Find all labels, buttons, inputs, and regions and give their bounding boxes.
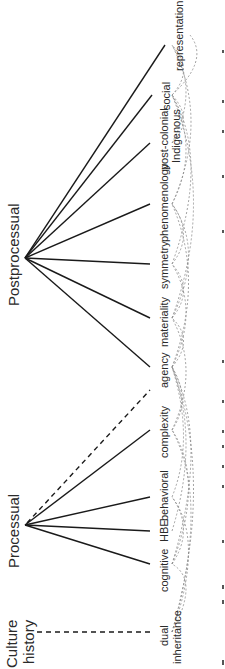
hub-processual-label: Processual [5,494,22,568]
postprocessual-edges [25,45,165,367]
processual-edges [25,390,150,564]
leaf-materiality-label: materiality [158,296,170,347]
diagram-canvas: Postprocessual Processual Culture histor… [0,0,225,669]
leaf-phenomenology-label: phenomenology [158,163,170,242]
edge-postprocessual-agency [25,258,150,367]
leaf-representation-label: representation [173,1,185,71]
leaf-dualinheritance-label-line2: inheritance [171,610,183,664]
edge-postprocessual-social [25,95,152,258]
lineage-diagram: Postprocessual Processual Culture histor… [0,0,225,669]
leaf-cognitive-label: cognitive [158,549,170,592]
edge-postprocessual-materiality [25,258,150,318]
leaf-behavioral-label: behavioral [158,470,170,521]
leaf-hbe-label: HBE [158,519,170,542]
edge-processual-hbe [25,525,150,531]
leaf-symmetry-label: symmetry [158,241,170,289]
edge-postprocessual-phenomenology [25,204,150,258]
leaf-postcolonial-label-line2: Indigenous [170,109,182,163]
edge-processual-agency-dashed [27,390,150,523]
leaf-postcolonial-label-line1: post-colonial [158,108,170,170]
edge-postprocessual-postcolonial [25,143,150,258]
hub-postprocessual-label: Postprocessual [5,203,22,306]
leaf-complexity-label: complexity [158,406,170,458]
edge-postprocessual-representation [25,45,165,258]
edge-postprocessual-symmetry [25,258,150,264]
leaf-agency-label: agency [158,352,170,388]
hub-culturehistory-label-line2: history [20,619,37,664]
caption-fragments [222,50,224,665]
edge-processual-cognitive [25,525,150,564]
leaf-dualinheritance-label-line1: dual [158,625,170,646]
hub-culturehistory-label-line1: Culture [3,620,20,668]
leaf-social-label: social [160,82,172,110]
